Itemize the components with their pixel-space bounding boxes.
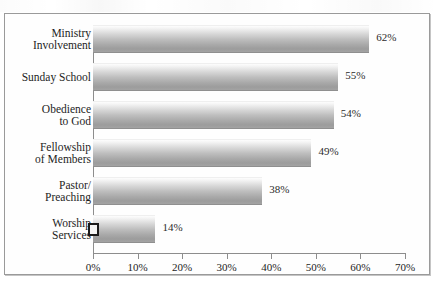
category-label: Sunday School (5, 71, 91, 84)
bar[interactable] (93, 101, 334, 129)
bar-row[interactable]: 38% (93, 177, 405, 215)
bar[interactable] (93, 25, 369, 53)
selection-handle[interactable] (88, 223, 99, 236)
bar-value-label: 55% (345, 69, 365, 81)
x-axis-tick (93, 253, 94, 259)
x-axis-tick-label: 10% (127, 261, 147, 273)
x-axis-tick-label: 60% (350, 261, 370, 273)
category-axis-labels: Ministry InvolvementSunday SchoolObedien… (5, 25, 91, 253)
bar-row[interactable]: 49% (93, 139, 405, 177)
bar[interactable] (93, 215, 155, 243)
x-axis-tick (227, 253, 228, 259)
bar-row[interactable]: 62% (93, 25, 405, 63)
x-axis-tick-label: 30% (217, 261, 237, 273)
x-axis-tick (405, 253, 406, 259)
x-axis-tick (138, 253, 139, 259)
x-axis-tick-label: 70% (395, 261, 415, 273)
category-label: Obedience to God (5, 103, 91, 128)
x-axis-tick-label: 0% (86, 261, 101, 273)
bar-row[interactable]: 54% (93, 101, 405, 139)
category-label: Fellowship of Members (5, 141, 91, 166)
bar[interactable] (93, 177, 262, 205)
x-axis-tick (360, 253, 361, 259)
bar-row[interactable]: 55% (93, 63, 405, 101)
category-label: Worship Services (5, 217, 91, 242)
bar[interactable] (93, 139, 311, 167)
bar-value-label: 38% (269, 183, 289, 195)
x-axis-tick-label: 20% (172, 261, 192, 273)
bar-value-label: 49% (318, 145, 338, 157)
x-axis-tick-label: 40% (261, 261, 281, 273)
bar-row[interactable]: 14% (93, 215, 405, 253)
x-axis-tick-label: 50% (306, 261, 326, 273)
chart-frame: Ministry InvolvementSunday SchoolObedien… (4, 13, 430, 275)
bar-value-label: 54% (341, 107, 361, 119)
category-label: Pastor/ Preaching (5, 179, 91, 204)
bar[interactable] (93, 63, 338, 91)
plot-area: 62%55%54%49%38%14% (93, 25, 405, 253)
bar-value-label: 14% (162, 221, 182, 233)
scan-noise-artifact (0, 0, 438, 12)
x-axis-tick (271, 253, 272, 259)
bar-value-label: 62% (376, 31, 396, 43)
x-axis-tick (316, 253, 317, 259)
x-axis-line (93, 253, 406, 254)
category-label: Ministry Involvement (5, 27, 91, 52)
x-axis-tick (182, 253, 183, 259)
